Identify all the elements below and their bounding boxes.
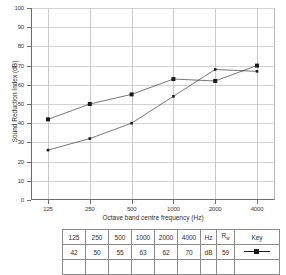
table-cell-value-250: 50 bbox=[86, 245, 109, 260]
table-cell-header-250: 250 bbox=[86, 230, 109, 245]
table-cell-header-4000: 4000 bbox=[178, 230, 201, 245]
series-line bbox=[48, 69, 257, 150]
series-data-point-marker bbox=[171, 77, 175, 81]
table-cell-value-4000: 70 bbox=[178, 245, 201, 260]
table-cell-header-125: 125 bbox=[63, 230, 86, 245]
series-data-point-marker bbox=[213, 79, 217, 83]
table-cell-partial-3 bbox=[109, 260, 132, 275]
table-cell-value-125: 42 bbox=[63, 245, 86, 260]
table-cell-partial-4 bbox=[132, 260, 155, 275]
table-cell-header-key: Key bbox=[235, 230, 280, 245]
table-row-partial bbox=[63, 260, 280, 275]
series-line bbox=[48, 66, 257, 120]
table-cell-header-hz: Hz bbox=[201, 230, 217, 245]
series-data-point-marker bbox=[130, 122, 133, 125]
table-cell-header-500: 500 bbox=[109, 230, 132, 245]
series-data-point-marker bbox=[89, 137, 92, 140]
table-cell-partial-2 bbox=[86, 260, 109, 275]
table-cell-partial-8 bbox=[217, 260, 235, 275]
data-table: 125 250 500 1000 2000 4000 Hz Rw Key 42 … bbox=[62, 229, 280, 275]
table-cell-value-500: 55 bbox=[109, 245, 132, 260]
table-cell-value-1000: 63 bbox=[132, 245, 155, 260]
table-cell-value-rw: 59 bbox=[217, 245, 235, 260]
table-cell-key-swatch bbox=[235, 245, 280, 260]
series-data-point-marker bbox=[256, 70, 259, 73]
table-cell-partial-9 bbox=[235, 260, 280, 275]
table-cell-value-2000: 62 bbox=[155, 245, 178, 260]
series-data-point-marker bbox=[88, 102, 92, 106]
table-cell-value-db: dB bbox=[201, 245, 217, 260]
table-cell-header-1000: 1000 bbox=[132, 230, 155, 245]
series-data-point-marker bbox=[214, 68, 217, 71]
table-row-header: 125 250 500 1000 2000 4000 Hz Rw Key bbox=[63, 230, 280, 245]
table-cell-partial-6 bbox=[178, 260, 201, 275]
table-cell-header-2000: 2000 bbox=[155, 230, 178, 245]
legend-key-icon bbox=[244, 248, 270, 255]
series-data-point-marker bbox=[47, 149, 50, 152]
table-cell-header-rw: Rw bbox=[217, 230, 235, 245]
table-cell-partial-1 bbox=[63, 260, 86, 275]
table-row-values: 42 50 55 63 62 70 dB 59 bbox=[63, 245, 280, 260]
series-overlay bbox=[0, 0, 286, 222]
series-data-point-marker bbox=[46, 117, 50, 121]
series-data-point-marker bbox=[172, 95, 175, 98]
chart-region: 0102030405060708090100 12525050010002000… bbox=[0, 0, 286, 222]
legend-square-marker-icon bbox=[254, 249, 259, 254]
table-cell-partial-7 bbox=[201, 260, 217, 275]
rw-subscript: w bbox=[226, 237, 229, 242]
series-data-point-marker bbox=[130, 92, 134, 96]
table-cell-partial-5 bbox=[155, 260, 178, 275]
series-data-point-marker bbox=[255, 64, 259, 68]
